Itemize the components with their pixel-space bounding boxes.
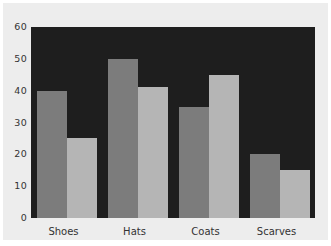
x-category-label-hats: Hats <box>99 225 170 238</box>
y-tick-label-0: 0 <box>3 212 27 224</box>
bar-group-shoes <box>31 27 102 218</box>
bar-shoes-series-2-light <box>67 138 97 218</box>
bar-scarves-series-1-dark <box>250 154 280 218</box>
bar-hats-series-1-dark <box>108 59 138 218</box>
bar-coats-series-1-dark <box>179 107 209 218</box>
y-tick-label-60: 60 <box>3 21 27 33</box>
plot-area <box>31 27 315 218</box>
bar-coats-series-2-light <box>209 75 239 218</box>
y-tick-label-50: 50 <box>3 53 27 65</box>
bar-scarves-series-2-light <box>280 170 310 218</box>
x-category-label-coats: Coats <box>170 225 241 238</box>
y-tick-label-20: 20 <box>3 148 27 160</box>
bar-shoes-series-1-dark <box>37 91 67 218</box>
bar-group-scarves <box>244 27 315 218</box>
bar-group-coats <box>173 27 244 218</box>
y-tick-label-30: 30 <box>3 117 27 129</box>
y-tick-label-40: 40 <box>3 85 27 97</box>
bar-group-hats <box>102 27 173 218</box>
x-category-label-shoes: Shoes <box>28 225 99 238</box>
bar-hats-series-2-light <box>138 87 168 218</box>
chart-screenshot: 0102030405060 ShoesHatsCoatsScarves <box>0 0 331 246</box>
chart-figure: 0102030405060 ShoesHatsCoatsScarves <box>3 3 328 240</box>
x-category-label-scarves: Scarves <box>241 225 312 238</box>
y-tick-label-10: 10 <box>3 180 27 192</box>
